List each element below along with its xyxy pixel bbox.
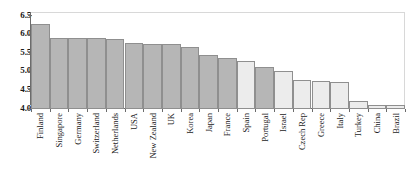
- x-axis-label: Brazil: [386, 113, 405, 177]
- x-tick-mark: [50, 109, 51, 112]
- x-axis-label-text: Greece: [316, 113, 325, 137]
- x-tick-mark: [125, 109, 126, 112]
- x-axis-label-text: Italy: [335, 113, 344, 129]
- bar: [368, 105, 387, 109]
- bar: [143, 44, 162, 109]
- x-axis-label: UK: [162, 113, 181, 177]
- x-axis-label-text: Spain: [242, 113, 251, 132]
- x-axis-label: Korea: [181, 113, 200, 177]
- bar: [237, 61, 256, 109]
- x-axis-label: Singapore: [50, 113, 69, 177]
- x-axis-label-text: Germany: [73, 113, 82, 145]
- bar: [31, 24, 50, 109]
- x-axis-label-text: New Zealand: [148, 113, 157, 159]
- x-axis-label: China: [368, 113, 387, 177]
- x-axis-label: Germany: [68, 113, 87, 177]
- x-tick-mark: [199, 109, 200, 112]
- x-tick-mark: [87, 109, 88, 112]
- x-axis-label: Spain: [237, 113, 256, 177]
- x-tick-mark: [368, 109, 369, 112]
- x-axis-label-text: China: [372, 113, 381, 133]
- x-axis-label: Netherlands: [106, 113, 125, 177]
- x-axis-label: USA: [125, 113, 144, 177]
- x-axis-label-text: Finland: [36, 113, 45, 139]
- x-axis-label-text: France: [223, 113, 232, 136]
- x-tick-mark: [68, 109, 69, 112]
- chart-screenshot: 4.04.55.05.56.06.5 FinlandSingaporeGerma…: [0, 0, 408, 178]
- x-tick-mark: [237, 109, 238, 112]
- bar: [50, 38, 69, 109]
- x-axis-label: Switzerland: [87, 113, 106, 177]
- x-axis-label-text: Japan: [204, 113, 213, 132]
- bar: [386, 105, 405, 109]
- x-axis-label: New Zealand: [143, 113, 162, 177]
- x-axis-label: France: [218, 113, 237, 177]
- x-axis-label: Turkey: [349, 113, 368, 177]
- x-axis-label-text: USA: [129, 113, 138, 130]
- bar: [87, 38, 106, 109]
- x-axis-label-text: Korea: [185, 113, 194, 134]
- bar: [255, 67, 274, 109]
- x-axis-label-text: Turkey: [354, 113, 363, 137]
- x-tick-mark: [31, 109, 32, 112]
- bar: [199, 55, 218, 109]
- bar: [274, 71, 293, 109]
- x-axis-label: Italy: [330, 113, 349, 177]
- x-axis-label: Portugal: [255, 113, 274, 177]
- bar: [218, 58, 237, 109]
- bar: [293, 80, 312, 109]
- x-axis-label-text: Switzerland: [92, 113, 101, 154]
- x-tick-mark: [349, 109, 350, 112]
- x-tick-mark: [386, 109, 387, 112]
- bar: [349, 101, 368, 109]
- x-tick-mark: [162, 109, 163, 112]
- x-tick-mark: [405, 109, 406, 112]
- x-tick-mark: [330, 109, 331, 112]
- x-axis-label-text: Brazil: [391, 113, 400, 134]
- x-tick-mark: [255, 109, 256, 112]
- x-axis-label: Israel: [274, 113, 293, 177]
- x-tick-mark: [106, 109, 107, 112]
- bar: [106, 39, 125, 109]
- x-axis-label: Greece: [312, 113, 331, 177]
- bar: [68, 38, 87, 109]
- x-axis-label: Czech Rep: [293, 113, 312, 177]
- x-axis-label-text: UK: [167, 113, 176, 125]
- x-tick-mark: [143, 109, 144, 112]
- x-axis-label-text: Israel: [279, 113, 288, 132]
- x-tick-mark: [293, 109, 294, 112]
- x-tick-mark: [181, 109, 182, 112]
- bar: [312, 81, 331, 109]
- x-axis-label: Japan: [199, 113, 218, 177]
- x-axis-label-text: Netherlands: [111, 113, 120, 154]
- bar: [330, 82, 349, 109]
- x-axis-label-text: Singapore: [55, 113, 64, 147]
- x-axis-label-text: Portugal: [260, 113, 269, 142]
- x-axis-labels: FinlandSingaporeGermanySwitzerlandNether…: [31, 113, 405, 178]
- bar: [125, 43, 144, 109]
- bar: [181, 47, 200, 109]
- bar-series: [31, 12, 405, 109]
- x-tick-mark: [218, 109, 219, 112]
- x-tick-mark: [274, 109, 275, 112]
- x-axis-label: Finland: [31, 113, 50, 177]
- x-tick-mark: [312, 109, 313, 112]
- x-axis-label-text: Czech Rep: [298, 113, 307, 150]
- bar: [162, 44, 181, 109]
- y-axis: 4.04.55.05.56.06.5: [0, 0, 31, 178]
